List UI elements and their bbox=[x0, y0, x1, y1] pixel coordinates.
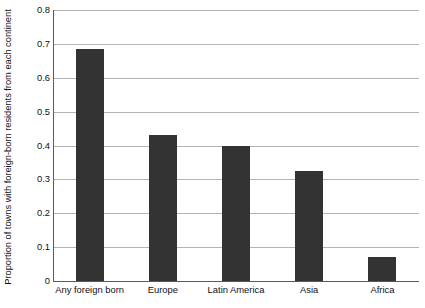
y-axis-tick-label: 0.7 bbox=[16, 39, 50, 49]
y-axis-title: Proportion of towns with foreign-born re… bbox=[1, 2, 15, 292]
y-axis-tick-label: 0.1 bbox=[16, 242, 50, 252]
bar bbox=[222, 146, 250, 282]
bar bbox=[76, 49, 104, 281]
plot-area bbox=[53, 10, 419, 281]
bar-series bbox=[53, 10, 419, 281]
x-axis-tick-label: Europe bbox=[148, 284, 178, 296]
y-axis-tick-label: 0.4 bbox=[16, 141, 50, 151]
x-axis-tick-label-group: Any foreign bornEuropeLatin AmericaAsiaA… bbox=[53, 284, 419, 300]
y-axis-tick-label: 0.2 bbox=[16, 208, 50, 218]
y-axis-tick-label: 0.5 bbox=[16, 107, 50, 117]
y-axis-tick-label: 0 bbox=[16, 276, 50, 286]
x-axis-tick-label: Latin America bbox=[208, 284, 265, 296]
y-axis-tick-label: 0.3 bbox=[16, 174, 50, 184]
bar bbox=[368, 257, 396, 281]
bar-chart-figure: Proportion of towns with foreign-born re… bbox=[0, 0, 425, 308]
bar bbox=[149, 135, 177, 281]
gridline-0 bbox=[53, 281, 419, 282]
y-axis-tick-label: 0.8 bbox=[16, 5, 50, 15]
bar bbox=[295, 171, 323, 281]
y-axis-tick-label: 0.6 bbox=[16, 73, 50, 83]
x-axis-tick-label: Any foreign born bbox=[55, 284, 124, 296]
y-axis-tick-label-group: 00.10.20.30.40.50.60.70.8 bbox=[16, 0, 50, 308]
x-axis-tick-label: Asia bbox=[300, 284, 318, 296]
x-axis-tick-label: Africa bbox=[370, 284, 394, 296]
